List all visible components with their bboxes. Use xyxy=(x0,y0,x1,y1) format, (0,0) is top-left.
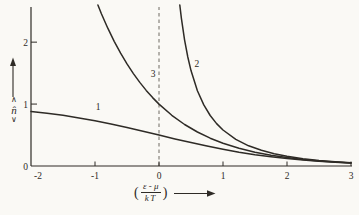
x-tick-label: 2 xyxy=(285,171,290,181)
x-tick-label: 1 xyxy=(221,171,226,181)
x-tick-label: -1 xyxy=(91,171,99,181)
x-label-denominator: kT xyxy=(141,192,161,203)
y-axis-label: ∧ n̂ ∨ xyxy=(6,96,22,124)
x-axis-label: ( ε - μ kT ) xyxy=(133,182,168,203)
x-tick-label: 3 xyxy=(349,171,354,181)
y-label-angle-bracket-bottom: ∨ xyxy=(11,116,17,124)
x-label-close-paren: ) xyxy=(162,186,169,200)
y-tick-label: 2 xyxy=(23,38,28,48)
x-tick-label: 0 xyxy=(157,171,162,181)
y-axis-arrow-head xyxy=(10,58,16,67)
y-label-angle-bracket-top: ∧ xyxy=(11,96,17,104)
curve-1 xyxy=(31,111,351,163)
curve-2 xyxy=(180,5,351,163)
curve-3 xyxy=(98,5,351,163)
x-label-fraction: ε - μ kT xyxy=(141,182,161,203)
occupation-number-figure: -2-10123120123 ∧ n̂ ∨ ( ε - μ kT ) xyxy=(0,0,359,215)
y-tick-label: 1 xyxy=(23,100,28,110)
x-axis-arrow-head xyxy=(207,190,216,196)
x-label-open-paren: ( xyxy=(133,186,140,200)
curve-label-1: 1 xyxy=(96,102,101,112)
curve-label-2: 2 xyxy=(194,59,199,69)
y-axis-arrow-icon xyxy=(10,58,16,98)
x-axis-arrow-icon xyxy=(174,190,216,196)
y-origin-label: 0 xyxy=(23,162,28,172)
x-label-numerator: ε - μ xyxy=(141,182,161,192)
curve-label-3: 3 xyxy=(151,69,156,79)
x-tick-label: -2 xyxy=(34,171,42,181)
plot-canvas: -2-10123120123 xyxy=(0,0,359,215)
